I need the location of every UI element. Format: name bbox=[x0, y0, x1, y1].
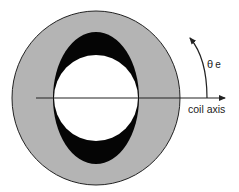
theta-arc-arrow bbox=[190, 38, 207, 98]
theta-symbol: θ bbox=[207, 58, 213, 70]
coil-cross-section-diagram bbox=[0, 0, 239, 192]
theta-e-label: θe bbox=[207, 58, 221, 70]
coil-axis-label: coil axis bbox=[188, 103, 225, 115]
theta-subscript: e bbox=[215, 59, 221, 70]
